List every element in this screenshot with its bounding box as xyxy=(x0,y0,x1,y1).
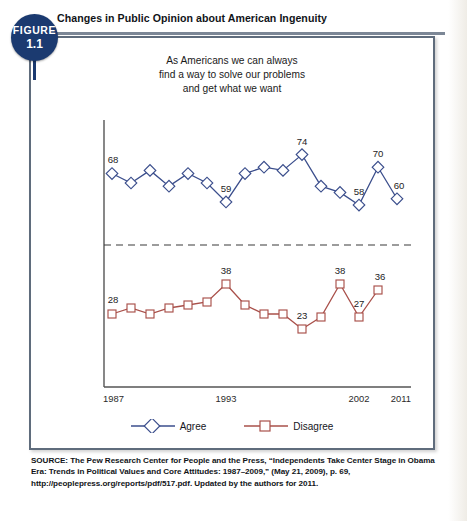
badge-stem xyxy=(33,58,36,80)
svg-text:38: 38 xyxy=(335,265,346,276)
figure-page: FIGURE 1.1 Changes in Public Opinion abo… xyxy=(0,0,467,521)
legend-label-agree: Agree xyxy=(180,421,207,432)
svg-text:68: 68 xyxy=(108,154,119,165)
legend-item-disagree: Disagree xyxy=(244,419,333,433)
figure-badge-word: FIGURE xyxy=(13,25,56,36)
svg-text:1987: 1987 xyxy=(103,393,124,404)
svg-text:58: 58 xyxy=(354,186,365,197)
title-rule xyxy=(57,32,445,35)
line-chart-svg: 6859745870602838233827361987199320022011 xyxy=(31,38,437,452)
figure-badge-number: 1.1 xyxy=(26,38,43,50)
legend-label-disagree: Disagree xyxy=(293,421,333,432)
svg-text:27: 27 xyxy=(354,298,365,309)
chart-legend: Agree Disagree xyxy=(31,419,433,433)
svg-text:28: 28 xyxy=(108,294,119,305)
chart-plot-area: 6859745870602838233827361987199320022011 xyxy=(31,38,437,452)
svg-text:60: 60 xyxy=(394,180,405,191)
svg-text:59: 59 xyxy=(221,183,232,194)
figure-frame: As Americans we can always find a way to… xyxy=(29,36,435,450)
svg-text:38: 38 xyxy=(221,265,232,276)
svg-text:36: 36 xyxy=(375,271,386,282)
figure-title: Changes in Public Opinion about American… xyxy=(57,12,443,24)
svg-text:1993: 1993 xyxy=(216,393,237,404)
svg-text:2011: 2011 xyxy=(391,393,411,404)
legend-item-agree: Agree xyxy=(131,419,207,433)
svg-text:2002: 2002 xyxy=(349,393,370,404)
legend-marker-diamond-icon xyxy=(131,419,175,433)
svg-text:23: 23 xyxy=(297,310,308,321)
svg-text:70: 70 xyxy=(373,148,384,159)
legend-marker-square-icon xyxy=(244,419,288,433)
source-note: SOURCE: The Pew Research Center for Peop… xyxy=(31,455,435,489)
figure-badge: FIGURE 1.1 xyxy=(11,14,58,61)
svg-text:74: 74 xyxy=(297,136,308,147)
